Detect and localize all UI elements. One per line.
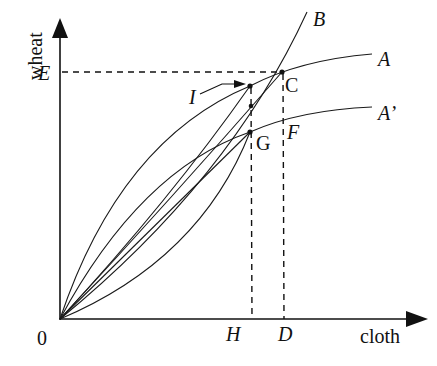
label-A-prime: A’ — [376, 102, 396, 124]
label-C: C — [285, 74, 298, 96]
point-middle — [249, 104, 254, 109]
label-B: B — [313, 8, 325, 30]
label-H: H — [225, 323, 242, 345]
line-B — [60, 12, 307, 319]
point-I — [247, 83, 252, 88]
curves — [60, 12, 372, 319]
point-G — [247, 129, 252, 134]
x-axis-arrow-icon — [406, 311, 428, 327]
label-G: G — [256, 132, 270, 154]
origin-label: 0 — [37, 327, 47, 349]
point-C — [279, 69, 284, 74]
dashed-line-C-D — [283, 74, 284, 319]
curve-origin-G — [60, 132, 250, 319]
pointer-line-I — [200, 84, 236, 94]
label-F: F — [286, 121, 300, 143]
curve-A — [250, 54, 372, 86]
label-E: E — [37, 62, 50, 84]
label-D: D — [277, 323, 293, 345]
label-A: A — [376, 48, 391, 70]
y-axis-arrow-icon — [52, 18, 68, 38]
trade-diagram: wheat cloth 0 E H D A A’ B C F G I — [0, 0, 437, 366]
curve-A-prime — [250, 107, 372, 132]
curve-origin-I-upper — [60, 86, 250, 319]
points — [247, 69, 284, 134]
pointer-arrow-icon — [234, 80, 246, 88]
x-axis-label: cloth — [360, 325, 400, 347]
axes — [52, 18, 428, 327]
curve-origin-I — [60, 86, 250, 319]
label-I: I — [188, 86, 197, 108]
dashed-line-I-H — [251, 88, 252, 319]
